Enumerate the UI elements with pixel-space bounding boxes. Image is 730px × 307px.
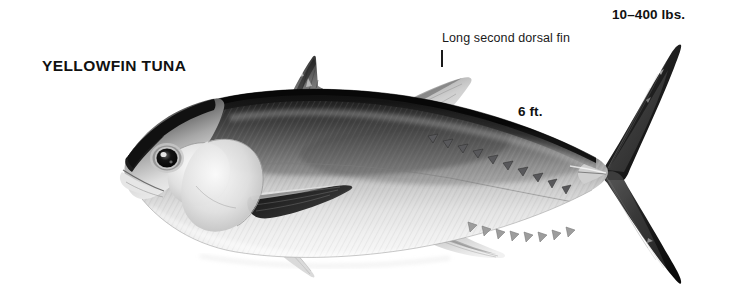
length-label: 6 ft. <box>518 105 543 119</box>
illustration-page: YELLOWFIN TUNA 10–400 lbs. 6 ft. Long se… <box>0 0 730 307</box>
eye <box>157 149 178 168</box>
dorsal-annotation-leader-line <box>441 50 443 67</box>
second-dorsal-fin-annotation: Long second dorsal fin <box>442 32 570 45</box>
yellowfin-tuna-illustration <box>0 0 730 307</box>
weight-range-label: 10–400 lbs. <box>612 8 685 22</box>
caudal-fin <box>602 44 681 283</box>
species-title: YELLOWFIN TUNA <box>42 58 186 74</box>
